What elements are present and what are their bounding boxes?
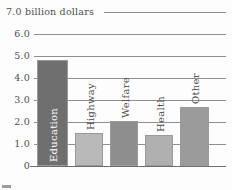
ytick-label-0: 0 [4, 160, 30, 171]
gridline-5 [34, 56, 226, 57]
corner-mark [2, 185, 11, 188]
chart-title: 7.0 billion dollars [6, 6, 94, 17]
ytick-label-5: 5.0 [4, 50, 30, 61]
bar-highway[interactable] [75, 133, 103, 166]
ytick-label-2: 2.0 [4, 116, 30, 127]
x-axis-baseline [30, 166, 226, 167]
ytick-label-3: 3.0 [4, 94, 30, 105]
bar-welfare[interactable] [110, 121, 138, 166]
ytick-label-4: 4.0 [4, 72, 30, 83]
gridline-6 [34, 34, 226, 35]
ytick-label-1: 1.0 [4, 138, 30, 149]
bar-label-other: Other [190, 73, 201, 104]
bar-label-health: Health [155, 96, 166, 132]
bar-other[interactable] [180, 107, 209, 166]
bar-label-welfare: Welfare [120, 77, 131, 118]
gridline-7 [104, 12, 226, 13]
bar-health[interactable] [145, 135, 173, 166]
bar-label-education: Education [48, 108, 59, 162]
ytick-label-6: 6.0 [4, 28, 30, 39]
bar-label-highway: Highway [85, 83, 96, 130]
bar-chart: 7.0 billion dollars 6.0 5.0 4.0 3.0 2.0 … [0, 0, 232, 190]
